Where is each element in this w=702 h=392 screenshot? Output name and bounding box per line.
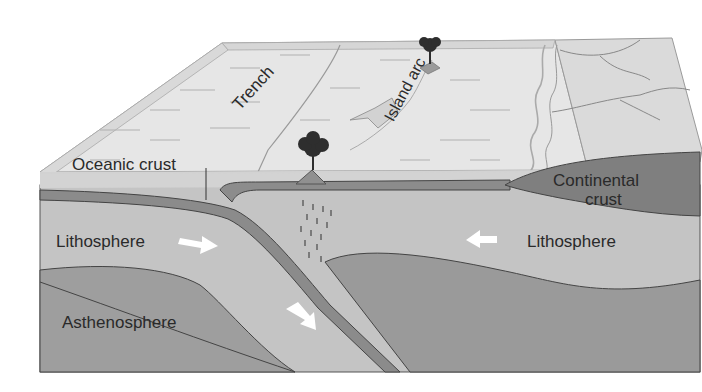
- asthenosphere-label: Asthenosphere: [62, 314, 176, 331]
- lithosphere-left-label: Lithosphere: [56, 233, 145, 250]
- lithosphere-right-label: Lithosphere: [527, 233, 616, 250]
- continental-crust-label-1: Continental: [553, 172, 639, 189]
- oceanic-crust-label: Oceanic crust: [72, 156, 176, 173]
- continental-crust-label-2: crust: [585, 191, 622, 208]
